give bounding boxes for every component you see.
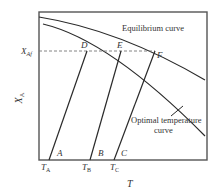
t-label-b: TB xyxy=(82,162,91,173)
reactor-staging-diagram: Equilibrium curve Optimal temperature cu… xyxy=(0,0,220,193)
point-label-a: A xyxy=(56,148,63,158)
point-label-d: D xyxy=(80,40,88,50)
point-label-e: E xyxy=(116,40,123,50)
plot-frame xyxy=(39,12,207,160)
adiabatic-line-cf xyxy=(114,51,155,160)
point-label-b: B xyxy=(98,148,104,158)
equilibrium-curve-label: Equilibrium curve xyxy=(122,23,184,33)
adiabatic-line-be xyxy=(90,51,121,160)
point-label-f: F xyxy=(156,50,163,60)
y-marker-xaf: XAf xyxy=(20,46,33,57)
point-label-c: C xyxy=(121,148,128,158)
optimal-curve-label-line1: Optimal temperature xyxy=(131,115,202,125)
x-axis-label: T xyxy=(127,178,134,189)
t-label-c: TC xyxy=(110,162,119,173)
adiabatic-line-ad xyxy=(49,51,87,160)
svg-text:XA: XA xyxy=(13,92,25,104)
y-axis-label: XA xyxy=(13,92,25,104)
t-label-a: TA xyxy=(41,162,51,173)
optimal-curve-label-line2: curve xyxy=(154,125,173,135)
